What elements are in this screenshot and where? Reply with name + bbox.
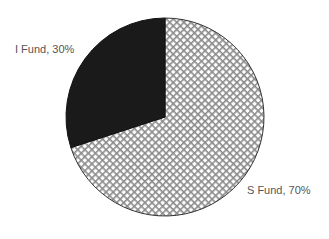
- pie-chart: [0, 0, 329, 239]
- label-s-fund: S Fund, 70%: [247, 184, 311, 196]
- label-i-fund: I Fund, 30%: [15, 43, 74, 55]
